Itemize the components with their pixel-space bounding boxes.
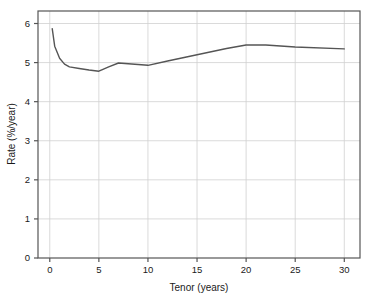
- y-axis-title: Rate (%/year): [6, 103, 17, 165]
- x-tick-label: 20: [241, 264, 252, 275]
- y-tick-label: 6: [25, 18, 30, 29]
- x-tick-label: 30: [339, 264, 350, 275]
- y-tick-label: 2: [25, 174, 30, 185]
- y-tick-label: 4: [25, 96, 30, 107]
- y-tick-label: 3: [25, 135, 30, 146]
- x-tick-label: 0: [47, 264, 52, 275]
- y-tick-label: 5: [25, 57, 30, 68]
- y-tick-label: 0: [25, 252, 30, 263]
- y-tick-label: 1: [25, 213, 30, 224]
- x-tick-label: 25: [290, 264, 301, 275]
- x-axis-title: Tenor (years): [170, 282, 229, 293]
- chart-figure: 0123456 051015202530 Tenor (years) Rate …: [0, 0, 373, 298]
- x-tick-label: 5: [96, 264, 101, 275]
- x-tick-label: 15: [192, 264, 203, 275]
- x-tick-label: 10: [143, 264, 154, 275]
- line-chart: 0123456 051015202530 Tenor (years) Rate …: [0, 0, 373, 298]
